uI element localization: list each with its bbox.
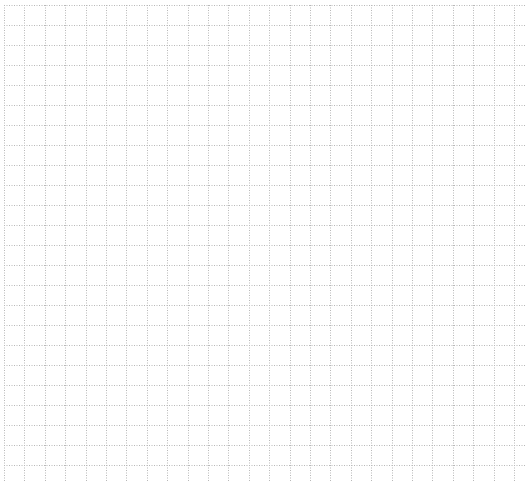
- dotted-grid-paper: [0, 0, 527, 486]
